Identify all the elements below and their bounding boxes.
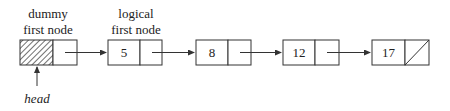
node-value: 12 xyxy=(293,45,306,60)
node-17: 17 xyxy=(372,40,429,65)
node-value: 8 xyxy=(209,45,216,60)
linked-list-diagram: 5 8 12 17 xyxy=(0,0,450,111)
node-value: 17 xyxy=(382,45,396,60)
head-label: head xyxy=(12,91,62,107)
node-value: 5 xyxy=(121,45,128,60)
